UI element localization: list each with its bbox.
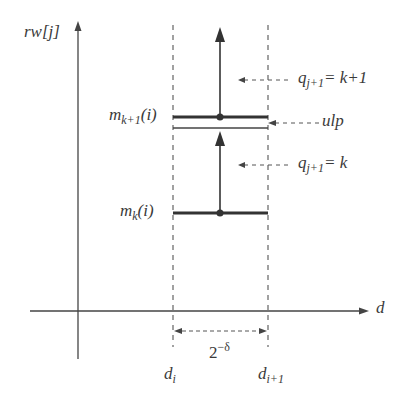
annotation-arrow-ulp: [268, 120, 322, 126]
dot-lower: [217, 210, 224, 217]
annotation-ulp: ulp: [322, 111, 344, 131]
interval-width-arrow: [174, 328, 267, 334]
dot-upper: [217, 114, 224, 121]
arrow-lower: [215, 131, 225, 213]
level-lower-arg: (i): [138, 201, 154, 220]
interval-right-label: di+1: [258, 364, 284, 387]
level-upper-name: m: [109, 105, 121, 124]
di-name: d: [164, 364, 173, 383]
annotation-arrow-q-upper: [238, 77, 288, 83]
di1-name: d: [258, 364, 267, 383]
interval-width-label: 2−δ: [209, 340, 230, 363]
x-axis: [30, 308, 369, 315]
annotation-arrow-q-lower: [238, 162, 288, 168]
annotation-q-upper: qj+1= k+1: [298, 68, 367, 91]
level-label-upper: mk+1(i): [109, 105, 157, 128]
interval-width-exp: −δ: [218, 340, 230, 354]
arrow-upper: [215, 27, 225, 117]
level-upper-sub: k+1: [121, 113, 140, 127]
x-axis-label-text: d: [376, 298, 385, 317]
interval-left-label: di: [164, 364, 176, 387]
interval-width-base: 2: [209, 343, 218, 362]
q-upper-name: q: [298, 68, 307, 87]
y-axis: [75, 21, 82, 359]
y-axis-label: rw[j]: [24, 22, 60, 42]
annotation-q-lower: qj+1= k: [298, 153, 347, 176]
diagram-canvas: [0, 0, 412, 405]
level-upper-arg: (i): [141, 105, 157, 124]
level-lower-name: m: [120, 201, 132, 220]
di-sub: i: [173, 372, 176, 386]
q-upper-rhs: = k+1: [324, 68, 367, 87]
y-axis-label-text: rw[j]: [24, 22, 60, 41]
q-lower-sub: j+1: [307, 161, 324, 175]
q-lower-name: q: [298, 153, 307, 172]
di1-sub: i+1: [267, 372, 284, 386]
q-upper-sub: j+1: [307, 76, 324, 90]
q-lower-rhs: = k: [324, 153, 347, 172]
level-label-lower: mk(i): [120, 201, 154, 224]
ulp-text: ulp: [322, 111, 344, 130]
x-axis-label: d: [376, 298, 385, 318]
